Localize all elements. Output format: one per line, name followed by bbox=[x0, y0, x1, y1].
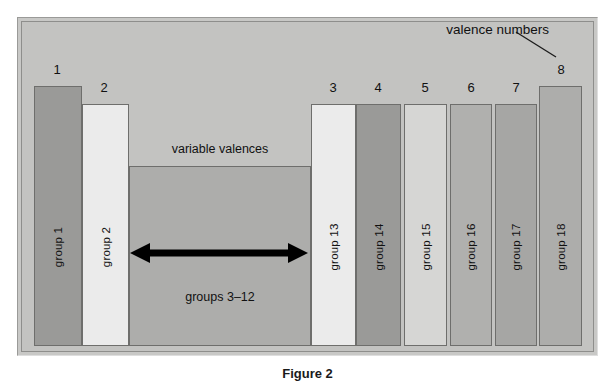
bar-label: group 15 bbox=[420, 224, 432, 271]
double-headed-arrow-icon bbox=[128, 236, 310, 270]
bar-label: group 2 bbox=[100, 227, 112, 267]
valence-number: 1 bbox=[45, 62, 69, 77]
bar-group-13: group 13 bbox=[311, 104, 356, 346]
valence-number: 4 bbox=[366, 80, 390, 95]
valence-number: 7 bbox=[504, 80, 528, 95]
bar-group-16: group 16 bbox=[450, 104, 492, 346]
groups-3-12-label: groups 3–12 bbox=[130, 290, 310, 304]
bar-label: group 1 bbox=[52, 227, 64, 267]
valence-numbers-figure: group 1group 2variable valencesgroups 3–… bbox=[0, 0, 615, 382]
bar-group-2: group 2 bbox=[82, 104, 129, 346]
bar-group-18: group 18 bbox=[539, 86, 582, 346]
bar-group-1: group 1 bbox=[34, 86, 82, 346]
bar-group-14: group 14 bbox=[356, 104, 401, 346]
bar-group-15: group 15 bbox=[404, 104, 447, 346]
valence-annotation-line1: valence numbers bbox=[446, 22, 549, 38]
bar-label: group 16 bbox=[465, 224, 477, 271]
diagram-panel: group 1group 2variable valencesgroups 3–… bbox=[21, 21, 594, 352]
bar-group-17: group 17 bbox=[495, 104, 537, 346]
bar-label: group 18 bbox=[555, 224, 567, 271]
valence-number: 6 bbox=[459, 80, 483, 95]
valence-number: 5 bbox=[413, 80, 437, 95]
variable-valences-label: variable valences bbox=[130, 142, 310, 156]
bar-label: group 17 bbox=[510, 224, 522, 271]
bar-label: group 13 bbox=[328, 224, 340, 271]
valence-number: 2 bbox=[92, 80, 116, 95]
figure-caption: Figure 2 bbox=[0, 366, 615, 382]
valence-number: 8 bbox=[549, 62, 573, 77]
bar-label: group 14 bbox=[373, 224, 385, 271]
valence-number: 3 bbox=[321, 80, 345, 95]
valence-numbers-annotation: valence numbers bbox=[446, 22, 549, 38]
